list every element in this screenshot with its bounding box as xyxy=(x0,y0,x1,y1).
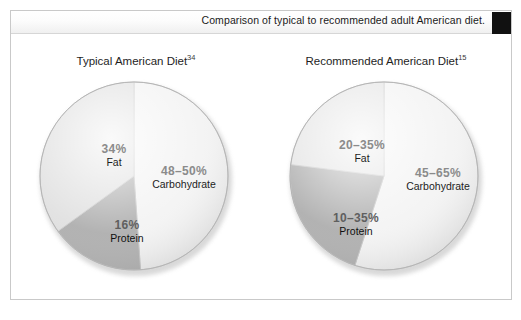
slice-percent-fat: 34% xyxy=(80,142,148,156)
pie-chart-typical: 34% Fat 48–50% Carbohydrate 16% Protein xyxy=(38,80,234,276)
chart-title-typical: Typical American Diet34 xyxy=(11,53,261,67)
pie-chart-recommended: 20–35% Fat 45–65% Carbohydrate 10–35% Pr… xyxy=(288,80,484,276)
charts-row: Typical American Diet34 xyxy=(11,34,511,299)
chart-title-recommended-text: Recommended American Diet xyxy=(305,55,458,67)
header-marker-square xyxy=(492,12,511,34)
chart-panel-recommended: Recommended American Diet15 xyxy=(261,34,511,301)
slice-label-fat: 20–35% Fat xyxy=(316,138,408,165)
figure-caption: Comparison of typical to recommended adu… xyxy=(201,14,485,26)
slice-name-protein: Protein xyxy=(310,225,402,237)
slice-percent-carbohydrate: 45–65% xyxy=(392,166,484,180)
slice-label-carbohydrate: 45–65% Carbohydrate xyxy=(392,166,484,193)
chart-title-recommended-reference: 15 xyxy=(458,53,466,62)
slice-name-fat: Fat xyxy=(316,152,408,164)
chart-title-typical-reference: 34 xyxy=(187,53,195,62)
slice-label-protein: 10–35% Protein xyxy=(310,211,402,238)
slice-percent-fat: 20–35% xyxy=(316,138,408,152)
slice-name-carbohydrate: Carbohydrate xyxy=(138,178,230,190)
slice-name-carbohydrate: Carbohydrate xyxy=(392,180,484,192)
chart-title-typical-text: Typical American Diet xyxy=(77,55,188,67)
header-bar: Comparison of typical to recommended adu… xyxy=(11,11,511,34)
figure-frame: Comparison of typical to recommended adu… xyxy=(10,10,512,300)
slice-label-protein: 16% Protein xyxy=(96,218,158,245)
slice-percent-carbohydrate: 48–50% xyxy=(138,164,230,178)
chart-panel-typical: Typical American Diet34 xyxy=(11,34,261,301)
chart-title-recommended: Recommended American Diet15 xyxy=(261,53,511,67)
slice-label-carbohydrate: 48–50% Carbohydrate xyxy=(138,164,230,191)
slice-name-protein: Protein xyxy=(96,232,158,244)
slice-percent-protein: 16% xyxy=(96,218,158,232)
slice-percent-protein: 10–35% xyxy=(310,211,402,225)
